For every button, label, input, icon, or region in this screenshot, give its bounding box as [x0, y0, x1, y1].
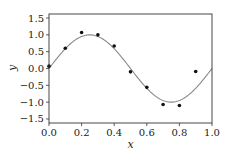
chart: 0.00.20.40.60.81.0 1.51.00.50.0−0.5−1.0−…	[0, 0, 226, 155]
data-point	[194, 70, 198, 74]
data-point	[96, 33, 100, 37]
data-point	[129, 70, 133, 74]
y-tick-label: 1.5	[28, 13, 44, 24]
y-axis-ticks: 1.51.00.50.0−0.5−1.0−1.5	[20, 13, 49, 125]
x-axis-ticks: 0.00.20.40.60.81.0	[41, 123, 220, 138]
chart-svg: 0.00.20.40.60.81.0 1.51.00.50.0−0.5−1.0−…	[0, 0, 226, 155]
curve-line	[49, 35, 212, 102]
data-point	[161, 103, 165, 107]
y-tick-label: −1.0	[20, 97, 44, 108]
y-axis-label: y	[6, 64, 19, 72]
x-axis-label: x	[127, 138, 134, 151]
data-point	[178, 104, 182, 108]
x-tick-label: 1.0	[204, 127, 220, 138]
data-point	[145, 86, 149, 90]
x-tick-label: 0.8	[171, 127, 187, 138]
y-tick-label: −0.5	[20, 80, 44, 91]
x-tick-label: 0.4	[106, 127, 122, 138]
x-tick-label: 0.2	[74, 127, 90, 138]
y-tick-label: 1.0	[28, 29, 44, 40]
data-points	[47, 31, 197, 108]
data-point	[112, 44, 116, 48]
x-tick-label: 0.6	[139, 127, 155, 138]
y-tick-label: −1.5	[20, 113, 44, 124]
data-point	[80, 31, 84, 35]
data-point	[64, 47, 68, 51]
y-tick-label: 0.5	[28, 46, 44, 57]
x-tick-label: 0.0	[41, 127, 57, 138]
y-tick-label: 0.0	[28, 63, 44, 74]
